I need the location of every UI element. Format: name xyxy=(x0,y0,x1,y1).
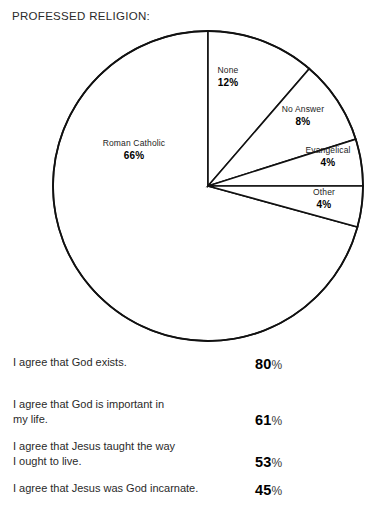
percent-sign: % xyxy=(272,484,283,498)
statement-line-1: I agree that Jesus was God incarnate. xyxy=(13,482,198,494)
pie-label-roman-catholic: Roman Catholic 66% xyxy=(80,139,188,161)
percent-sign: % xyxy=(272,414,283,428)
statement-list: I agree that God exists. 80% I agree tha… xyxy=(0,355,377,513)
pie-label-none-value: 12% xyxy=(198,77,258,89)
statement-line-1: I agree that God is important in xyxy=(13,398,164,410)
statement-text: I agree that God exists. xyxy=(13,355,243,370)
pie-label-none-text: None xyxy=(198,66,258,76)
pie-chart-svg xyxy=(0,0,377,350)
statement-text: I agree that God is important in my life… xyxy=(13,397,243,426)
statement-row: I agree that Jesus was God incarnate. 45… xyxy=(0,481,377,513)
statement-text: I agree that Jesus taught the way I ough… xyxy=(13,439,243,468)
statement-row: I agree that God exists. 80% xyxy=(0,355,377,397)
pie-label-evangelical-value: 4% xyxy=(288,157,368,169)
pie-chart: None 12% No Answer 8% Evangelical 4% Oth… xyxy=(0,0,377,350)
statement-line-2: my life. xyxy=(13,412,243,427)
statement-value: 53% xyxy=(255,454,282,470)
percent-sign: % xyxy=(272,456,283,470)
statement-value-number: 61 xyxy=(255,412,272,428)
statement-value-number: 80 xyxy=(255,356,272,372)
statement-line-1: I agree that God exists. xyxy=(13,356,127,368)
statement-value: 80% xyxy=(255,356,282,372)
statement-row: I agree that Jesus taught the way I ough… xyxy=(0,439,377,481)
pie-label-no-answer-value: 8% xyxy=(266,116,340,128)
pie-label-evangelical-text: Evangelical xyxy=(288,146,368,156)
statement-line-2: I ought to live. xyxy=(13,454,243,469)
percent-sign: % xyxy=(272,358,283,372)
statement-value-number: 45 xyxy=(255,482,272,498)
statement-value-number: 53 xyxy=(255,454,272,470)
pie-label-roman-catholic-value: 66% xyxy=(80,150,188,162)
pie-label-no-answer-text: No Answer xyxy=(266,105,340,115)
pie-label-roman-catholic-text: Roman Catholic xyxy=(80,139,188,149)
pie-label-other: Other 4% xyxy=(293,188,355,210)
pie-label-no-answer: No Answer 8% xyxy=(266,105,340,127)
pie-label-none: None 12% xyxy=(198,66,258,88)
statement-row: I agree that God is important in my life… xyxy=(0,397,377,439)
statement-line-1: I agree that Jesus taught the way xyxy=(13,440,175,452)
pie-label-evangelical: Evangelical 4% xyxy=(288,146,368,168)
pie-label-other-value: 4% xyxy=(293,199,355,211)
statement-value: 45% xyxy=(255,482,282,498)
pie-label-other-text: Other xyxy=(293,188,355,198)
statement-value: 61% xyxy=(255,412,282,428)
statement-text: I agree that Jesus was God incarnate. xyxy=(13,481,243,496)
